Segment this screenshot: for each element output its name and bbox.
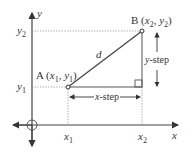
y-axis-label: y [36,7,42,19]
x1-tick-label: x1 [63,130,73,145]
point-b [140,29,144,33]
y2-tick-label: y2 [16,24,26,39]
x-step-label: x-step [94,91,119,102]
point-a [66,85,70,89]
distance-diagram: y x y2 y1 x1 x2 A (x1, y1) B (x2, y2) d … [0,0,192,154]
point-b-label: B (x2, y2) [131,14,172,29]
x2-tick-label: x2 [137,130,147,145]
distance-label: d [96,48,102,60]
y1-tick-label: y1 [16,80,26,95]
point-a-label: A (x1, y1) [36,69,77,84]
x-axis-label: x [171,129,177,141]
right-angle-marker [135,80,142,87]
distance-line [68,31,142,87]
y-step-label: y-step [144,54,169,65]
